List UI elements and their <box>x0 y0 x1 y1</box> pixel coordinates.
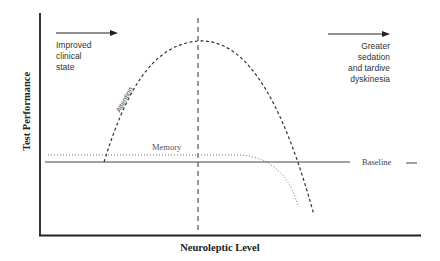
memory-curve <box>48 155 298 206</box>
attention-curve <box>104 41 314 215</box>
memory-label: Memory <box>152 142 181 153</box>
y-axis-label: Test Performance <box>21 62 32 162</box>
right-arrow-head <box>382 31 390 37</box>
x-axis-label: Neuroleptic Level <box>160 242 280 253</box>
left-annotation: Improved clinical state <box>56 40 91 73</box>
right-annotation: Greater sedation and tardive dyskinesia <box>320 41 390 85</box>
baseline-label: Baseline <box>362 157 391 168</box>
left-arrow-head <box>110 30 118 36</box>
attention-label: Attention <box>115 86 134 114</box>
